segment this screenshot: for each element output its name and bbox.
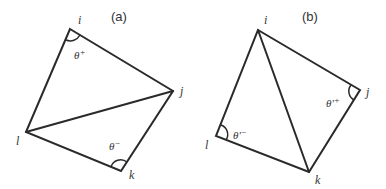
- panel-b-vertex-k: k: [315, 173, 321, 187]
- panel-a-vertex-i: i: [78, 13, 81, 27]
- panel-b-caption: (b): [302, 9, 318, 24]
- panel-b-vertex-l: l: [205, 138, 209, 152]
- panel-a-angle-label-plus: θ+: [74, 47, 85, 61]
- panel-a-quadrilateral: [26, 29, 173, 171]
- panel-a-vertex-k: k: [129, 168, 135, 182]
- panel-a-vertex-l: l: [16, 134, 20, 148]
- panel-b-angle-label-plus: θ'+: [326, 95, 340, 109]
- panel-b: (b) i j k l θ'+ θ'−: [205, 9, 370, 187]
- panel-a-angle-label-minus: θ−: [109, 138, 120, 152]
- panel-a-caption: (a): [111, 9, 127, 24]
- diagram-canvas: (a) i j k l θ+ θ− (b) i j k l θ'+ θ'−: [0, 0, 386, 189]
- panel-b-angle-arc-j: [349, 85, 354, 100]
- panel-b-angle-label-minus: θ'−: [233, 127, 247, 141]
- panel-a-vertex-j: j: [178, 84, 184, 98]
- panel-a: (a) i j k l θ+ θ−: [16, 9, 184, 182]
- panel-b-vertex-i: i: [264, 13, 267, 27]
- panel-b-vertex-j: j: [364, 85, 370, 99]
- panel-b-diagonal-ik: [258, 30, 309, 172]
